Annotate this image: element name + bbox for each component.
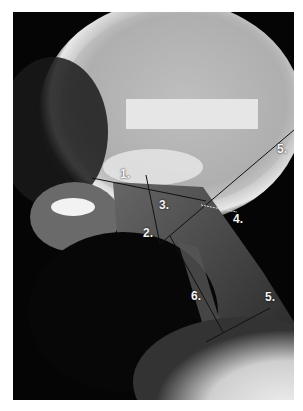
label-6: 6. [191,289,201,303]
xray-image [13,12,294,400]
label-4: 4. [233,212,243,226]
label-5-upper: 5. [277,142,287,156]
xray-svg [13,12,294,400]
label-5-lower: 5. [265,290,275,304]
label-1: 1. [120,167,130,181]
redaction-box [126,99,258,129]
label-3: 3. [159,198,169,212]
label-2: 2. [143,226,153,240]
teeth [51,198,95,216]
skull-base [103,149,203,185]
